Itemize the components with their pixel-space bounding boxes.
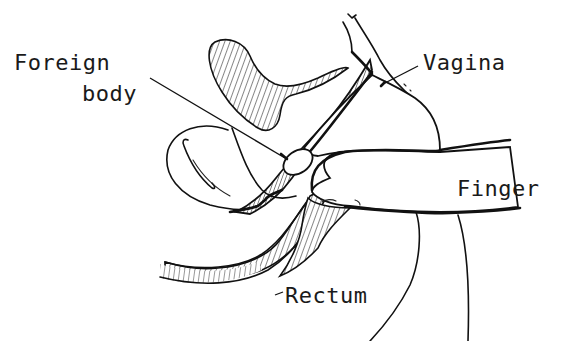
label-foreign-body-line2: body — [82, 81, 137, 106]
vagina-leader — [383, 66, 418, 84]
anatomical-diagram: Foreign body Vagina Finger Rectum — [0, 0, 570, 341]
uterus-shape — [209, 40, 348, 131]
palm-line-1 — [370, 212, 419, 341]
inner-slit-line — [193, 160, 230, 196]
label-vagina: Vagina — [423, 50, 505, 75]
label-finger: Finger — [457, 176, 539, 201]
rectum-leader — [275, 292, 283, 295]
perineal-tissue — [304, 75, 440, 156]
palm-line-2 — [458, 215, 469, 341]
vagina-dots — [404, 84, 411, 91]
left-oval — [167, 126, 256, 210]
label-rectum: Rectum — [285, 283, 367, 308]
label-foreign-body-line1: Foreign — [14, 50, 110, 75]
